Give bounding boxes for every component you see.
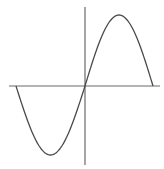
sine-wave-diagram [0,0,164,169]
